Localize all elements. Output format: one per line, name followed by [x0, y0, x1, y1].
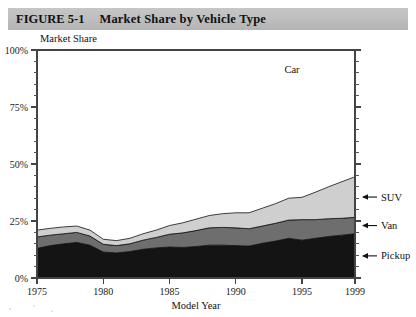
callout-label-pickup: Pickup: [381, 250, 410, 261]
x-axis-title: Model Year: [172, 300, 222, 311]
y-tick-label: 75%: [10, 102, 28, 113]
callout-label-van: Van: [381, 220, 398, 231]
y-tick-label: 0%: [15, 273, 28, 284]
x-tick-label: 1990: [226, 286, 246, 297]
y-tick-label: 50%: [10, 159, 28, 170]
x-axis-ticks: [37, 278, 355, 284]
figure-title: Market Share by Vehicle Type: [91, 12, 266, 27]
chart-area: 0%25%50%75%100% 197519801985199019951999…: [0, 30, 416, 317]
callout-label-suv: SUV: [381, 192, 402, 203]
x-tick-label: 1999: [345, 286, 365, 297]
series-callouts: SUVVanPickup: [362, 192, 410, 262]
figure-number: FIGURE 5-1: [8, 12, 91, 27]
callout-van: Van: [362, 220, 398, 231]
arrow-head-icon: [362, 253, 368, 259]
y-tick-label: 100%: [5, 45, 28, 56]
y-axis-tick-labels: 0%25%50%75%100%: [5, 45, 28, 284]
y-axis-title: Market Share: [40, 33, 97, 44]
stacked-area-chart: 0%25%50%75%100% 197519801985199019951999…: [0, 30, 416, 317]
arrow-head-icon: [362, 223, 368, 229]
x-axis-tick-labels: 197519801985199019951999: [27, 286, 365, 297]
x-tick-label: 1975: [27, 286, 47, 297]
figure-container: FIGURE 5-1 Market Share by Vehicle Type …: [0, 0, 416, 317]
callout-suv: SUV: [362, 192, 402, 203]
x-tick-label: 1995: [292, 286, 312, 297]
arrow-head-icon: [362, 194, 368, 200]
y-axis-ticks: [31, 50, 37, 278]
x-tick-label: 1985: [160, 286, 180, 297]
figure-title-band: FIGURE 5-1 Market Share by Vehicle Type: [8, 8, 408, 30]
series-label-car: Car: [284, 64, 300, 75]
callout-pickup: Pickup: [362, 250, 410, 261]
y-axis-right-ticks: [355, 50, 361, 278]
y-tick-label: 25%: [10, 216, 28, 227]
x-tick-label: 1980: [93, 286, 113, 297]
